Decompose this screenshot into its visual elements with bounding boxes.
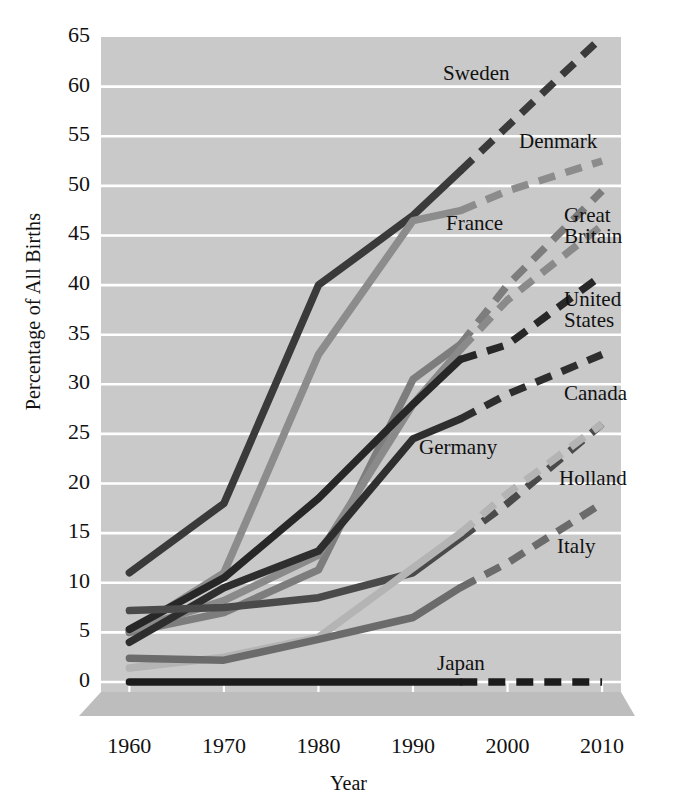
x-tick-label: 2010 <box>557 733 647 759</box>
x-tick-label: 1960 <box>84 733 174 759</box>
y-tick-label: 15 <box>34 518 90 544</box>
chart-container: Percentage of All Births Year 0510152025… <box>0 0 697 811</box>
y-tick-label: 20 <box>34 469 90 495</box>
y-tick-label: 10 <box>34 568 90 594</box>
series-label-great-britain: GreatBritain <box>564 205 622 248</box>
line-chart-plot <box>0 0 697 811</box>
x-axis-title: Year <box>0 772 697 795</box>
series-label-canada: Canada <box>564 383 627 404</box>
series-label-japan: Japan <box>437 653 485 674</box>
series-label-italy: Italy <box>557 536 595 557</box>
x-tick-label: 2000 <box>463 733 553 759</box>
y-tick-label: 30 <box>34 369 90 395</box>
series-label-holland: Holland <box>559 468 627 489</box>
y-tick-label: 55 <box>34 121 90 147</box>
series-label-denmark: Denmark <box>519 131 597 152</box>
x-tick-label: 1970 <box>179 733 269 759</box>
y-tick-label: 40 <box>34 270 90 296</box>
series-label-france: France <box>446 213 503 234</box>
x-tick-label: 1980 <box>273 733 363 759</box>
x-tick-label: 1990 <box>368 733 458 759</box>
y-tick-label: 35 <box>34 320 90 346</box>
series-label-germany: Germany <box>419 437 497 458</box>
y-tick-label: 45 <box>34 220 90 246</box>
y-tick-label: 50 <box>34 171 90 197</box>
y-tick-label: 5 <box>34 617 90 643</box>
series-label-sweden: Sweden <box>443 63 510 84</box>
y-tick-label: 0 <box>34 667 90 693</box>
y-tick-label: 60 <box>34 72 90 98</box>
y-tick-label: 25 <box>34 419 90 445</box>
y-tick-label: 65 <box>34 22 90 48</box>
series-label-united-states: UnitedStates <box>564 289 621 332</box>
chart-base-slab <box>79 692 635 716</box>
